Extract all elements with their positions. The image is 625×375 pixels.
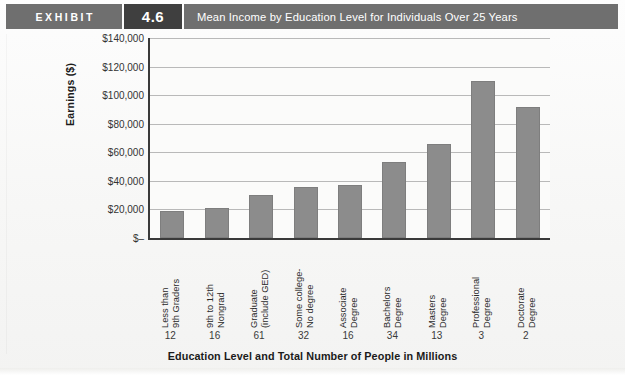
bar-cell xyxy=(506,38,550,238)
people-count: 12 xyxy=(148,330,192,346)
category-label-line: (include GED) xyxy=(259,270,270,328)
category-label-line: Associate xyxy=(338,288,349,328)
category-label-line: Doctorate xyxy=(515,288,526,328)
exhibit-number: 4.6 xyxy=(124,4,182,29)
y-axis-tick-label: $20,000 xyxy=(72,204,144,215)
category-label-cell: ProfessionalDegree xyxy=(459,244,503,330)
bar-cell xyxy=(372,38,416,238)
category-label-cell: Graduate(include GED) xyxy=(237,244,281,330)
x-axis-title: Education Level and Total Number of Peop… xyxy=(0,350,625,362)
category-label: Some college-No degree xyxy=(293,269,314,328)
category-label: Graduate(include GED) xyxy=(249,270,270,328)
y-axis-tick-label: $40,000 xyxy=(72,175,144,186)
bar-cell xyxy=(461,38,505,238)
bar xyxy=(205,208,229,238)
category-label-line: 9th Graders xyxy=(170,279,181,328)
plot-area xyxy=(148,38,550,240)
category-label-line: 9th to 12th xyxy=(204,284,215,328)
category-label: 9th to 12thNongrad xyxy=(204,284,225,328)
category-label-line: Less than xyxy=(160,279,171,328)
category-label-line: Degree xyxy=(526,288,537,328)
category-label: DoctorateDegree xyxy=(515,288,536,328)
category-label-line: Graduate xyxy=(249,270,260,328)
bar xyxy=(471,81,495,238)
category-label-cell: AssociateDegree xyxy=(326,244,370,330)
people-count: 16 xyxy=(192,330,236,346)
category-label-cell: MastersDegree xyxy=(415,244,459,330)
bar xyxy=(382,162,406,238)
x-axis-people-counts: 1216613216341332 xyxy=(148,330,548,346)
category-label-line: Masters xyxy=(426,295,437,328)
bar xyxy=(249,195,273,238)
category-label: AssociateDegree xyxy=(338,288,359,328)
category-label-line: Some college- xyxy=(293,269,304,328)
y-axis-tick-label: $120,000 xyxy=(72,61,144,72)
category-label-cell: Less than9th Graders xyxy=(148,244,192,330)
people-count: 2 xyxy=(504,330,548,346)
category-label: MastersDegree xyxy=(426,295,447,328)
bar-cell xyxy=(417,38,461,238)
category-label-cell: Some college-No degree xyxy=(281,244,325,330)
people-count: 13 xyxy=(415,330,459,346)
people-count: 61 xyxy=(237,330,281,346)
page-bottom-edge xyxy=(0,368,625,375)
category-label-line: Degree xyxy=(348,288,359,328)
category-label: BachelorsDegree xyxy=(382,287,403,328)
bar-series xyxy=(150,38,550,238)
category-label: ProfessionalDegree xyxy=(471,277,492,328)
bar xyxy=(427,144,451,238)
category-label: Less than9th Graders xyxy=(160,279,181,328)
bar xyxy=(516,107,540,238)
exhibit-header: EXHIBIT 4.6 Mean Income by Education Lev… xyxy=(6,4,618,29)
category-label-line: Degree xyxy=(437,295,448,328)
exhibit-label: EXHIBIT xyxy=(6,4,122,29)
exhibit-page: EXHIBIT 4.6 Mean Income by Education Lev… xyxy=(0,0,625,375)
people-count: 3 xyxy=(459,330,503,346)
y-axis-tick-label: $– xyxy=(72,233,144,244)
chart-container: Earnings ($) $140,000$120,000$100,000$80… xyxy=(0,30,625,375)
bar-cell xyxy=(328,38,372,238)
people-count: 34 xyxy=(370,330,414,346)
bar-cell xyxy=(239,38,283,238)
category-label-line: Professional xyxy=(471,277,482,328)
x-axis-category-labels: Less than9th Graders9th to 12thNongradGr… xyxy=(148,244,548,330)
category-label-cell: DoctorateDegree xyxy=(504,244,548,330)
people-count: 16 xyxy=(326,330,370,346)
bar xyxy=(160,211,184,238)
y-axis-ticks: $140,000$120,000$100,000$80,000$60,000$4… xyxy=(72,30,144,375)
y-axis-tick-label: $140,000 xyxy=(72,33,144,44)
bar xyxy=(338,185,362,238)
category-label-line: Bachelors xyxy=(382,287,393,328)
exhibit-title: Mean Income by Education Level for Indiv… xyxy=(184,4,618,29)
category-label-cell: 9th to 12thNongrad xyxy=(192,244,236,330)
bar-cell xyxy=(283,38,327,238)
category-label-line: Degree xyxy=(393,287,404,328)
y-axis-tick-label: $80,000 xyxy=(72,118,144,129)
category-label-cell: BachelorsDegree xyxy=(370,244,414,330)
category-label-line: Nongrad xyxy=(215,284,226,328)
category-label-line: Degree xyxy=(481,277,492,328)
y-axis-tick-label: $60,000 xyxy=(72,147,144,158)
y-axis-tick-label: $100,000 xyxy=(72,90,144,101)
category-label-line: No degree xyxy=(304,269,315,328)
bar-cell xyxy=(194,38,238,238)
bar-cell xyxy=(150,38,194,238)
people-count: 32 xyxy=(281,330,325,346)
bar xyxy=(294,187,318,238)
